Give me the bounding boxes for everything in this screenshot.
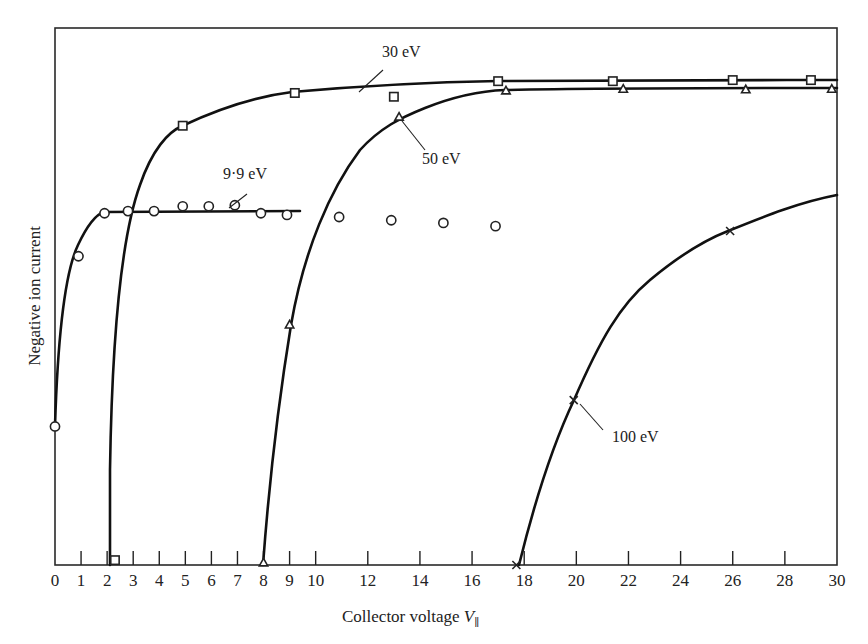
annotation-30ev: 30 eV	[382, 43, 421, 60]
leader-50ev	[402, 121, 425, 150]
marker-triangle	[502, 86, 510, 94]
x-tick-label: 24	[672, 571, 690, 590]
annotation-50ev: 50 eV	[422, 150, 461, 167]
x-tick-label: 4	[155, 571, 164, 590]
marker-circle	[123, 207, 132, 216]
marker-triangle	[742, 85, 750, 93]
marker-triangle	[259, 558, 267, 566]
marker-circle	[335, 212, 344, 221]
marker-circle	[230, 201, 239, 210]
x-tick-label: 6	[207, 571, 216, 590]
x-tick-label: 3	[129, 571, 138, 590]
marker-circle	[439, 218, 448, 227]
x-tick-label: 28	[776, 571, 793, 590]
marker-square	[179, 122, 187, 130]
plot-frame	[55, 28, 837, 565]
marker-circle	[282, 210, 291, 219]
marker-square	[729, 76, 737, 84]
x-axis-label: Collector voltage V∥	[342, 607, 479, 628]
marker-square	[807, 76, 815, 84]
marker-circle	[50, 422, 59, 431]
marker-circle	[256, 209, 265, 218]
x-tick-label: 30	[829, 571, 846, 590]
leader-30ev	[359, 70, 383, 92]
marker-triangle	[395, 113, 403, 121]
x-tick-label: 22	[620, 571, 637, 590]
x-tick-label: 1	[77, 571, 86, 590]
x-axis-label-text: Collector voltage	[342, 607, 464, 626]
curve-100ev	[519, 195, 837, 565]
x-tick-label: 26	[724, 571, 741, 590]
annotation-9-9ev: 9·9 eV	[223, 165, 267, 182]
x-tick-label: 2	[103, 571, 112, 590]
y-axis-label: Negative ion current	[25, 226, 44, 366]
marker-triangle	[619, 85, 627, 93]
x-tick-label: 16	[464, 571, 481, 590]
x-tick-label: 0	[51, 571, 60, 590]
x-tick-label: 9	[285, 571, 294, 590]
marker-triangle	[828, 85, 836, 93]
chart: 01234567891012141618202224262830 30 eV 5…	[0, 0, 868, 644]
marker-square	[291, 89, 299, 97]
curve-30ev	[110, 80, 837, 565]
marker-circle	[149, 207, 158, 216]
marker-square	[111, 556, 119, 564]
marker-circle	[74, 252, 83, 261]
marker-square	[390, 93, 398, 101]
x-tick-label: 8	[259, 571, 268, 590]
marker-circle	[387, 216, 396, 225]
x-tick-label: 7	[233, 571, 242, 590]
marker-square	[609, 77, 617, 85]
x-tick-label: 5	[181, 571, 190, 590]
x-tick-label: 10	[307, 571, 324, 590]
curve-50ev	[263, 88, 837, 565]
x-tick-label: 20	[568, 571, 585, 590]
x-tick-label: 18	[516, 571, 533, 590]
x-tick-label: 14	[411, 571, 429, 590]
leader-100ev	[580, 404, 603, 430]
annotation-100ev: 100 eV	[612, 428, 659, 445]
x-tick-label: 12	[359, 571, 376, 590]
x-axis-ticks: 01234567891012141618202224262830	[51, 551, 846, 590]
marker-square	[494, 77, 502, 85]
marker-circle	[178, 202, 187, 211]
marker-circle	[491, 222, 500, 231]
marker-circle	[100, 209, 109, 218]
curve-9-9ev	[55, 211, 300, 426]
marker-circle	[204, 202, 213, 211]
x-axis-label-sub: ∥	[474, 616, 479, 628]
